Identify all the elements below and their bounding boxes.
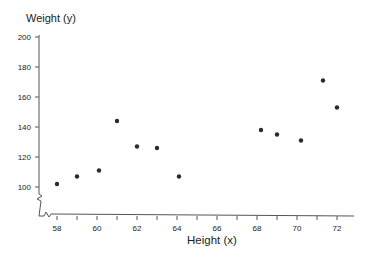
data-points bbox=[55, 78, 339, 186]
x-tick-label: 58 bbox=[53, 224, 62, 233]
scatter-chart: Weight (y) Height (x) 100120140160180200… bbox=[0, 0, 369, 271]
plot-area: 100120140160180200 5860626466687072 bbox=[0, 0, 369, 271]
data-point bbox=[75, 174, 79, 178]
y-tick-label: 180 bbox=[18, 63, 32, 72]
data-point bbox=[299, 138, 303, 142]
data-point bbox=[155, 146, 159, 150]
x-axis: 5860626466687072 bbox=[44, 212, 354, 233]
data-point bbox=[135, 144, 139, 148]
x-tick-label: 64 bbox=[173, 224, 182, 233]
y-axis-label: Weight (y) bbox=[26, 12, 76, 24]
data-point bbox=[177, 174, 181, 178]
data-point bbox=[321, 78, 325, 82]
data-point bbox=[55, 182, 59, 186]
y-tick-label: 140 bbox=[18, 123, 32, 132]
y-tick-label: 160 bbox=[18, 93, 32, 102]
x-axis-line bbox=[44, 212, 354, 217]
x-tick-label: 68 bbox=[253, 224, 262, 233]
data-point bbox=[275, 132, 279, 136]
y-tick-label: 120 bbox=[18, 153, 32, 162]
y-tick-label: 100 bbox=[18, 183, 32, 192]
x-tick-label: 60 bbox=[93, 224, 102, 233]
data-point bbox=[115, 119, 119, 123]
data-point bbox=[335, 105, 339, 109]
x-tick-label: 66 bbox=[213, 224, 222, 233]
y-axis-line bbox=[37, 35, 44, 216]
x-tick-label: 72 bbox=[333, 224, 342, 233]
data-point bbox=[97, 168, 101, 172]
x-axis-label: Height (x) bbox=[187, 234, 237, 246]
data-point bbox=[259, 128, 263, 132]
x-tick-label: 62 bbox=[133, 224, 142, 233]
y-tick-label: 200 bbox=[18, 33, 32, 42]
x-tick-label: 70 bbox=[293, 224, 302, 233]
y-axis: 100120140160180200 bbox=[18, 33, 44, 216]
